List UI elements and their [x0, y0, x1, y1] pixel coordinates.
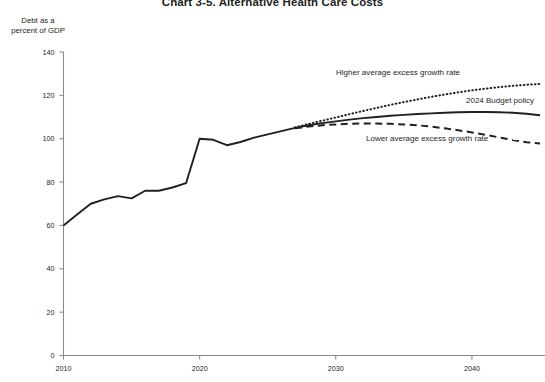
series-annotation-label: Lower average excess growth rate	[366, 134, 488, 143]
data-series-group	[64, 84, 541, 226]
x-axis-tick-label: 2040	[452, 364, 492, 373]
plot-area	[0, 0, 545, 382]
series-annotation-label: Higher average excess growth rate	[336, 68, 460, 77]
x-axis-tick-label: 2010	[44, 364, 84, 373]
y-axis-tick-label: 40	[29, 264, 55, 273]
series-annotation-label: 2024 Budget policy	[466, 96, 534, 105]
x-axis-tick-label: 2030	[316, 364, 356, 373]
y-axis-tick-label: 80	[29, 178, 55, 187]
y-axis-tick-label: 0	[29, 351, 55, 360]
y-axis-tick-label: 60	[29, 221, 55, 230]
series-line	[295, 84, 540, 128]
y-axis-tick-label: 100	[29, 134, 55, 143]
y-axis-tick-label: 120	[29, 91, 55, 100]
y-axis-tick-label: 140	[29, 48, 55, 57]
chart-container: Chart 3-5. Alternative Health Care Costs…	[0, 0, 545, 382]
x-axis-tick-label: 2020	[180, 364, 220, 373]
series-line	[64, 112, 541, 225]
y-axis-tick-label: 20	[29, 308, 55, 317]
